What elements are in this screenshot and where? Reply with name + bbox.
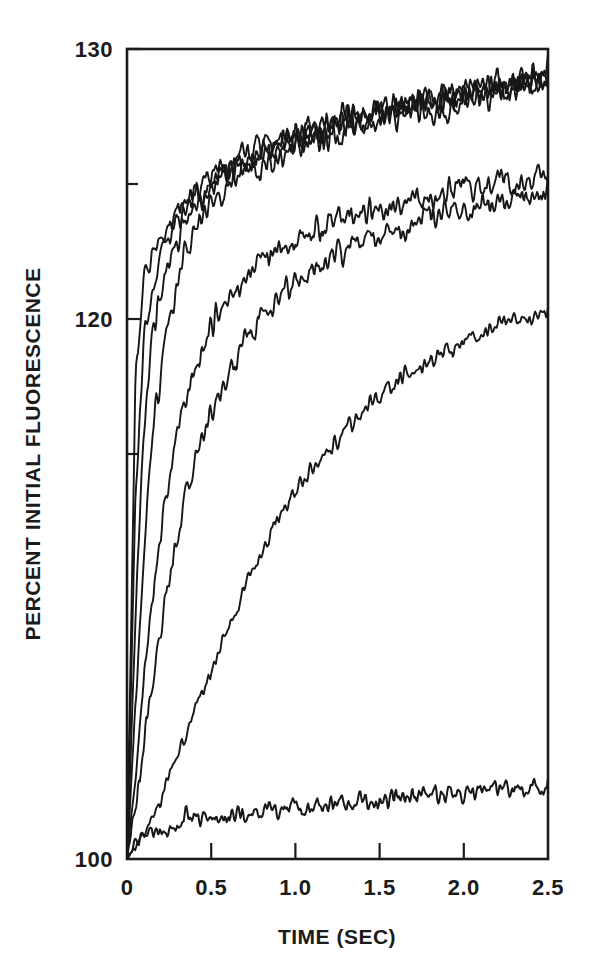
trace-trace-3-fast-b — [127, 63, 548, 859]
y-tick-label-130: 130 — [75, 37, 113, 62]
y-tick-label-100: 100 — [75, 847, 113, 872]
trace-trace-2-fast — [127, 55, 548, 859]
x-axis-title: TIME (SEC) — [278, 925, 396, 948]
y-axis-tick-labels: 100120130 — [75, 37, 113, 872]
x-tick-label-1.5: 1.5 — [364, 875, 396, 900]
x-tick-label-0.5: 0.5 — [195, 875, 227, 900]
trace-trace-1-fastest — [127, 68, 548, 859]
trace-trace-6-medium-slow — [127, 180, 548, 859]
x-axis-tick-labels: 00.51.01.52.02.5 — [121, 875, 564, 900]
trace-trace-5-medium — [127, 165, 548, 859]
y-tick-label-120: 120 — [75, 307, 113, 332]
x-tick-label-0: 0 — [121, 875, 134, 900]
x-tick-label-1.0: 1.0 — [279, 875, 311, 900]
x-tick-label-2.0: 2.0 — [448, 875, 480, 900]
data-traces — [127, 55, 548, 859]
plot-frame — [127, 49, 548, 859]
x-tick-label-2.5: 2.5 — [532, 875, 564, 900]
figure-container: 100120130 00.51.01.52.02.5 TIME (SEC) PE… — [0, 0, 604, 973]
y-axis-title: PERCENT INITIAL FLUORESCENCE — [21, 268, 44, 641]
fluorescence-kinetics-chart: 100120130 00.51.01.52.02.5 TIME (SEC) PE… — [0, 0, 604, 973]
x-axis-ticks — [211, 843, 464, 859]
trace-trace-8-baseline — [127, 779, 548, 859]
y-axis-ticks — [127, 49, 141, 454]
